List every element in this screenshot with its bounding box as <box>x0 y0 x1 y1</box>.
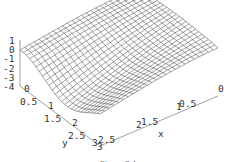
y-tick-label: 1 <box>48 100 54 111</box>
x-tick-label: 2 <box>136 119 142 130</box>
z-tick-label: -4 <box>3 81 15 92</box>
y-axis-title: y <box>62 137 68 148</box>
surface-wireframe <box>20 0 218 114</box>
axes <box>20 40 218 146</box>
x-tick-label: 3 <box>92 137 98 148</box>
axis-labels: 10-1-2-3-400.511.522.53y00.511.522.53x <box>3 35 224 152</box>
y-tick-label: 0 <box>24 83 30 94</box>
x-tick-label: 1 <box>176 101 182 112</box>
y-tick-label: 2.5 <box>68 130 85 141</box>
x-tick-label: 2.5 <box>98 134 115 145</box>
surface-plot: 10-1-2-3-400.511.522.53y00.511.522.53x F… <box>0 0 230 162</box>
x-tick-label: 0 <box>218 83 224 94</box>
surface-mesh <box>20 0 218 114</box>
x-tick-label: 1.5 <box>141 116 158 127</box>
y-tick-label: 2 <box>72 117 78 128</box>
x-axis-title: x <box>158 128 164 139</box>
y-tick-label: 0.5 <box>20 96 37 107</box>
figure-caption: Figure 7.4 <box>100 159 137 162</box>
y-tick-label: 1.5 <box>44 113 61 124</box>
